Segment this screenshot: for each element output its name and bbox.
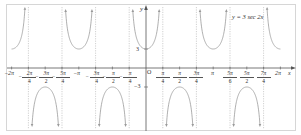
curve-arrow-up-icon [64,9,67,12]
curve-arrow-up-icon [266,7,269,10]
fraction-numerator: π [173,71,187,78]
curve-arrow-down-icon [165,124,168,127]
minus-sign: − [102,74,105,80]
curve-arrow-down-icon [124,124,127,127]
minus-sign: − [35,74,38,80]
x-tick-label-fraction: 7π4 [257,71,271,84]
minus-sign: − [52,74,55,80]
curve-arrow-down-icon [31,124,34,127]
x-axis-arrow-icon [291,66,296,70]
y-axis-arrow-icon [144,5,148,10]
x-tick-label-neg2pi: −2π [4,70,14,76]
x-tick-label-fraction: 3π4 [189,71,203,84]
sec-curve-segment [267,9,280,49]
sec-graph: y = 3 sec 2x y x O 3 −3 −2π −π π 2π −2π4… [0,0,301,135]
curve-arrow-up-icon [225,9,228,12]
fraction-numerator: 5π [240,71,254,78]
curve-arrow-down-icon [57,124,60,127]
curve-arrow-down-icon [98,124,101,127]
sec-curve-segment [66,11,92,49]
fraction-denominator: 4 [156,78,170,84]
x-tick-label-fraction: −π4 [123,71,137,84]
fraction-denominator: 2 [240,78,254,84]
curve-arrow-up-icon [199,9,202,12]
minus-sign: − [119,74,122,80]
curve-arrow-down-icon [259,124,262,127]
fraction-denominator: 4 [123,78,137,84]
curve-arrow-up-icon [24,7,27,10]
x-tick-label-negpi: −π [73,70,80,76]
fraction-numerator: π [156,71,170,78]
fraction-numerator: π [123,71,137,78]
curve-arrow-down-icon [191,124,194,127]
x-tick-label-fraction: π4 [156,71,170,84]
sec-curve-segment [166,87,192,125]
origin-label: O [147,69,151,75]
fraction-numerator: 7π [257,71,271,78]
equation-label: y = 3 sec 2x [232,13,263,20]
minus-sign: − [18,74,21,80]
fraction-denominator: 4 [56,78,70,84]
curve-arrow-up-icon [91,9,94,12]
fraction-denominator: 4 [257,78,271,84]
curve-arrow-up-icon [132,9,135,12]
x-axis-label: x [288,70,291,76]
x-tick-label-fraction: −5π4 [56,71,70,84]
curve-arrow-down-icon [232,124,235,127]
sec-curve-segment [32,87,58,125]
x-tick-label-pi: π [211,70,214,76]
sec-curve-segment [234,87,260,125]
y-axis-label: y [140,6,143,13]
fraction-denominator: 2 [173,78,187,84]
x-tick-label-2pi: 2π [275,70,281,76]
x-tick-label-fraction: 5π2 [240,71,254,84]
fraction-denominator: 6 [223,78,237,84]
fraction-numerator: 5π [223,71,237,78]
minus-sign: − [86,74,89,80]
curve-arrow-up-icon [158,9,161,12]
fraction-denominator: 4 [189,78,203,84]
plot-area [0,0,301,135]
fraction-numerator: 3π [189,71,203,78]
sec-curve-segment [200,11,226,49]
fraction-numerator: 5π [56,71,70,78]
sec-curve-segment [12,9,25,49]
y-tick-label-3: 3 [136,46,139,52]
sec-curve-segment [99,87,125,125]
x-tick-label-fraction: 5π6 [223,71,237,84]
x-tick-label-fraction: π2 [173,71,187,84]
